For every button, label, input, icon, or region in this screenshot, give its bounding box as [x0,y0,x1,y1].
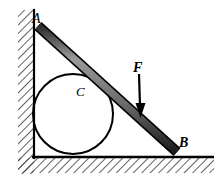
label-point-a: A [32,12,41,26]
wall-hatching [18,10,34,174]
label-point-b: B [179,136,188,150]
label-force-f: F [133,61,142,75]
figure-canvas [0,0,214,179]
floor-hatching [18,158,214,173]
statics-figure: A B C F [0,0,214,179]
label-center-c: C [76,85,85,98]
